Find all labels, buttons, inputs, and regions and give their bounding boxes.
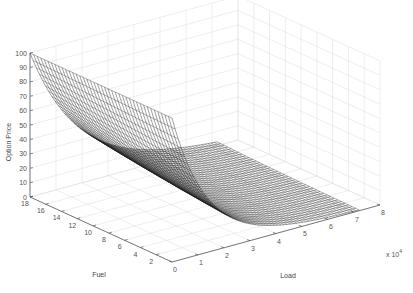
surface-mesh xyxy=(30,53,359,226)
svg-text:5: 5 xyxy=(303,230,307,237)
svg-text:6: 6 xyxy=(329,223,333,230)
back-grid xyxy=(30,0,380,262)
svg-text:7: 7 xyxy=(355,216,359,223)
svg-text:18: 18 xyxy=(21,200,29,207)
svg-text:10: 10 xyxy=(19,179,27,186)
svg-text:30: 30 xyxy=(19,150,27,157)
fuel-axis-ticks: 24681012141618 xyxy=(21,196,159,265)
load-axis-ticks: 012345678 xyxy=(169,204,385,273)
svg-text:90: 90 xyxy=(19,64,27,71)
svg-text:3: 3 xyxy=(251,245,255,252)
svg-text:4: 4 xyxy=(277,238,281,245)
svg-text:8: 8 xyxy=(381,209,385,216)
surface-plot: 0102030405060708090100 24681012141618 01… xyxy=(0,0,413,293)
fuel-axis-label: Fuel xyxy=(92,271,106,278)
svg-text:10: 10 xyxy=(84,229,92,236)
svg-text:50: 50 xyxy=(19,122,27,129)
z-axis-label: Option Price xyxy=(5,123,13,162)
svg-text:6: 6 xyxy=(118,243,122,250)
svg-text:0: 0 xyxy=(173,266,177,273)
svg-text:4: 4 xyxy=(133,251,137,258)
svg-text:1: 1 xyxy=(199,259,203,266)
load-axis-label: Load xyxy=(280,272,296,279)
svg-text:16: 16 xyxy=(37,207,45,214)
svg-text:40: 40 xyxy=(19,136,27,143)
svg-text:60: 60 xyxy=(19,107,27,114)
load-axis-multiplier: x 104 xyxy=(386,248,402,258)
svg-text:100: 100 xyxy=(15,50,27,57)
svg-text:2: 2 xyxy=(225,252,229,259)
svg-text:8: 8 xyxy=(102,236,106,243)
svg-text:2: 2 xyxy=(149,258,153,265)
svg-text:14: 14 xyxy=(53,214,61,221)
svg-text:12: 12 xyxy=(68,222,76,229)
svg-text:20: 20 xyxy=(19,165,27,172)
svg-text:70: 70 xyxy=(19,93,27,100)
svg-text:80: 80 xyxy=(19,78,27,85)
